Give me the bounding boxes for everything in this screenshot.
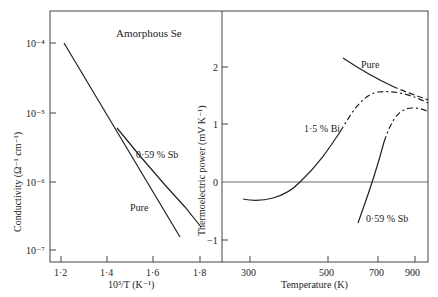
label-sb: 0·59 % Sb bbox=[136, 149, 178, 160]
y-tick-label: −1 bbox=[207, 235, 218, 246]
y-tick-label: 10⁻⁶ bbox=[26, 177, 45, 188]
series-bi-dashed bbox=[340, 92, 428, 132]
x-tick-label: 1·2 bbox=[54, 267, 67, 278]
plot-frame bbox=[50, 11, 428, 262]
x-tick-label: 1·6 bbox=[146, 267, 159, 278]
right-panel-thermoelectric: 2 1 0 −1 300 500 700 900 Temperature (K)… bbox=[196, 58, 428, 291]
x-tick-label: 700 bbox=[369, 267, 384, 278]
left-title: Amorphous Se bbox=[116, 27, 182, 39]
y-tick-label: 10⁻⁴ bbox=[26, 38, 45, 49]
label-pure: Pure bbox=[130, 202, 149, 213]
figure: Amorphous Se 10⁻⁴ 10⁻⁵ 10⁻⁶ 10⁻⁷ 1·2 1·4… bbox=[0, 0, 438, 297]
y-tick-label: 10⁻⁷ bbox=[26, 245, 45, 256]
series-sb-dashed bbox=[384, 108, 428, 142]
x-tick-label: 300 bbox=[241, 267, 256, 278]
x-tick-label: 500 bbox=[319, 267, 334, 278]
left-x-axis-label: 10³/T (K⁻¹) bbox=[108, 279, 154, 291]
series-pure-line bbox=[64, 43, 180, 237]
series-bi-solid bbox=[243, 132, 340, 200]
y-tick-label: 0 bbox=[213, 177, 218, 188]
label-pure: Pure bbox=[361, 59, 380, 70]
label-sb: 0·59 % Sb bbox=[366, 213, 408, 224]
left-panel-conductivity: Amorphous Se 10⁻⁴ 10⁻⁵ 10⁻⁶ 10⁻⁷ 1·2 1·4… bbox=[12, 27, 206, 291]
left-y-axis-label: Conductivity (Ω⁻¹ cm⁻¹) bbox=[12, 132, 24, 232]
x-tick-label: 1·8 bbox=[193, 267, 206, 278]
y-tick-label: 10⁻⁵ bbox=[26, 108, 45, 119]
series-pure-dashed bbox=[392, 86, 428, 100]
y-tick-label: 2 bbox=[213, 62, 218, 73]
series-sb-solid bbox=[358, 142, 384, 223]
y-tick-label: 1 bbox=[213, 119, 218, 130]
right-y-axis-label: Thermoelectric power (mV K⁻¹) bbox=[196, 105, 208, 236]
label-bi: 1·5 % Bi bbox=[304, 123, 340, 134]
x-tick-label: 1·4 bbox=[100, 267, 113, 278]
x-tick-label: 900 bbox=[405, 267, 420, 278]
right-x-axis-label: Temperature (K) bbox=[281, 279, 348, 291]
